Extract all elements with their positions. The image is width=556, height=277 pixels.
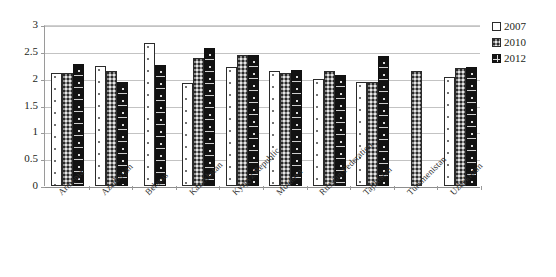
bar-2010 — [106, 71, 117, 186]
bar-2012 — [155, 65, 166, 186]
x-axis-tickmark — [89, 186, 90, 190]
y-axis-tick-label: 1 — [4, 126, 38, 137]
bar-2010 — [193, 58, 204, 186]
bar-2007 — [182, 83, 193, 186]
legend-item[interactable]: 2007 — [492, 18, 554, 34]
legend-swatch-icon — [492, 22, 501, 31]
bar-group — [132, 26, 176, 186]
x-axis-tickmark — [437, 186, 438, 190]
legend-swatch-icon — [492, 54, 501, 63]
bar-2007 — [51, 73, 62, 186]
bar-2007 — [226, 67, 237, 186]
legend: 200720102012 — [492, 18, 554, 66]
x-axis-tickmark — [481, 186, 482, 190]
bar-2010 — [367, 82, 378, 186]
bar-2007 — [95, 66, 106, 186]
bar-2007 — [313, 79, 324, 186]
legend-swatch-icon — [492, 38, 501, 47]
bar-chart: 00.511.522.53 ArmeniaAzerbaijanBelarusKa… — [0, 0, 556, 277]
bar-2007 — [144, 43, 155, 186]
bar-group — [45, 26, 89, 186]
x-axis-tickmark — [350, 186, 351, 190]
bar-2007 — [356, 82, 367, 186]
y-axis-tickmark — [41, 187, 45, 188]
y-axis-tick-label: 1.5 — [4, 100, 38, 111]
y-axis-tick-label: 0.5 — [4, 153, 38, 164]
bar-group — [176, 26, 220, 186]
x-axis-tickmark — [307, 186, 308, 190]
bar-group — [394, 26, 438, 186]
bar-2007 — [269, 71, 280, 186]
bar-2007 — [444, 77, 455, 186]
x-axis-tickmark — [219, 186, 220, 190]
legend-item[interactable]: 2010 — [492, 34, 554, 50]
y-axis-tick-label: 0 — [4, 180, 38, 191]
legend-label: 2007 — [504, 21, 526, 32]
x-axis-tickmark — [394, 186, 395, 190]
x-axis-tickmark — [132, 186, 133, 190]
bar-2010 — [280, 73, 291, 186]
x-axis-tickmark — [263, 186, 264, 190]
y-axis-tick-label: 3 — [4, 19, 38, 30]
bar-2010 — [62, 73, 73, 186]
x-axis-tickmark — [176, 186, 177, 190]
bar-2010 — [455, 68, 466, 186]
bar-2010 — [324, 71, 335, 186]
legend-item[interactable]: 2012 — [492, 50, 554, 66]
legend-label: 2010 — [504, 37, 526, 48]
legend-label: 2012 — [504, 53, 526, 64]
y-axis-tick-label: 2 — [4, 73, 38, 84]
bar-2010 — [411, 71, 422, 186]
y-axis-tick-label: 2.5 — [4, 46, 38, 57]
bar-2010 — [237, 55, 248, 186]
